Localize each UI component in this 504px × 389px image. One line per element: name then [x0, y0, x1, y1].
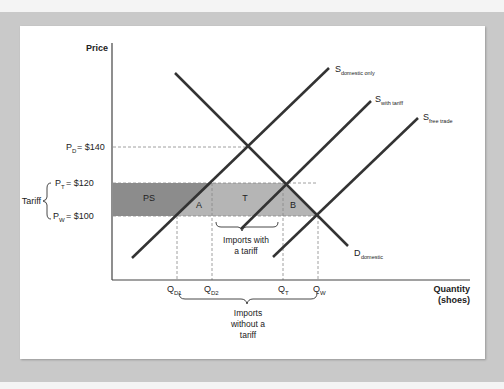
area-label-t: T [242, 193, 248, 203]
svg-text:with tariff: with tariff [380, 100, 403, 106]
supply-free-line [273, 118, 418, 257]
svg-text:D2: D2 [211, 290, 219, 296]
tariff-label: Tariff [22, 196, 42, 206]
svg-text:Q: Q [313, 284, 320, 294]
price-label-pt: P T = $120 [55, 178, 94, 190]
svg-text:D: D [354, 248, 361, 258]
qty-label-qd1: Q D1 [167, 284, 182, 296]
price-label-pw: P W = $100 [53, 211, 94, 223]
x-axis-label: Quantity [433, 284, 470, 294]
brace-imports-free [179, 293, 317, 304]
svg-text:Q: Q [167, 284, 174, 294]
svg-text:T: T [285, 290, 289, 296]
curve-label-s-domestic: S domestic only [335, 64, 375, 76]
svg-text:Q: Q [278, 284, 285, 294]
qty-label-qd2: Q D2 [204, 284, 219, 296]
area-label-ps: PS [143, 193, 155, 203]
imports-free-line3: tariff [240, 330, 257, 340]
curve-label-s-tariff: S with tariff [375, 94, 403, 106]
imports-tariff-line1: Imports with [223, 235, 269, 245]
svg-text:W: W [59, 217, 65, 223]
svg-text:W: W [320, 290, 326, 296]
svg-text:Q: Q [204, 284, 211, 294]
y-axis-label: Price [86, 43, 108, 53]
curve-label-s-free: S free trade [423, 112, 453, 124]
curve-label-d-domestic: D domestic [354, 248, 383, 260]
brace-tariff [43, 183, 51, 219]
tariff-diagram: Price Quantity (shoes) P D = $140 P T = … [0, 0, 504, 389]
svg-text:= $120: = $120 [66, 178, 94, 188]
demand-line [175, 73, 348, 246]
qty-label-qt: Q T [278, 284, 289, 296]
x-axis-unit: (shoes) [438, 295, 470, 305]
svg-text:T: T [61, 184, 65, 190]
svg-text:= $100: = $100 [66, 211, 94, 221]
svg-text:free trade: free trade [429, 118, 453, 124]
qty-label-qw: Q W [313, 284, 326, 296]
imports-tariff-line2: a tariff [234, 246, 258, 256]
supply-domestic-line [132, 68, 329, 258]
svg-text:= $140: = $140 [77, 142, 105, 152]
price-label-pd: P D = $140 [66, 142, 105, 154]
svg-text:D1: D1 [174, 290, 182, 296]
area-label-a: A [196, 200, 202, 210]
svg-text:domestic only: domestic only [341, 70, 375, 76]
area-label-b: B [290, 200, 296, 210]
imports-free-line2: without a [230, 319, 265, 329]
svg-text:domestic: domestic [361, 254, 383, 260]
imports-free-line1: Imports [234, 308, 262, 318]
